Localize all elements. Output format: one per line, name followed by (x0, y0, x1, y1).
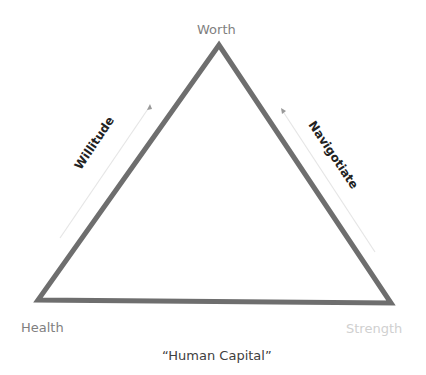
diagram-caption: “Human Capital” (162, 348, 272, 363)
willitude-arrow-head-icon (147, 104, 152, 110)
vertex-label-strength: Strength (346, 321, 402, 336)
vertex-label-worth: Worth (197, 22, 236, 37)
vertex-label-health: Health (21, 320, 64, 335)
human-capital-diagram: Worth Health Strength Willitude Navigoti… (0, 0, 426, 375)
triangle-graphic (0, 0, 426, 375)
navigotiate-arrow (282, 110, 375, 252)
